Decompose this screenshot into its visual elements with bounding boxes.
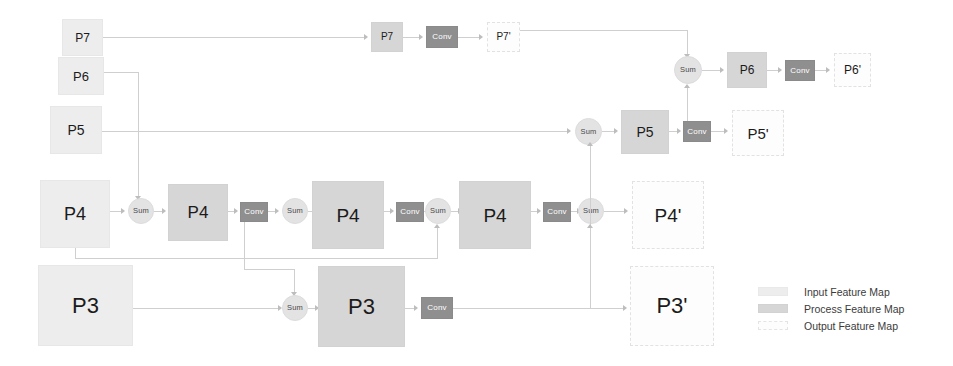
node-p7-output[interactable]: P7' [487,22,520,52]
arrow-p4sum1-to-proc1 [162,208,166,214]
node-p3-process[interactable]: P3 [318,266,405,347]
node-p6-process[interactable]: P6 [727,52,767,88]
node-p6-sum[interactable]: Sum [674,56,702,84]
node-p5-output[interactable]: P5' [732,110,784,156]
node-p5-process[interactable]: P5 [621,110,669,154]
edge-p6in-down-to-p4sum1 [138,72,139,198]
node-p3-output[interactable]: P3' [630,266,714,346]
edge-p3in-to-p3sum [133,308,279,309]
arrow-p5sum-to-p5proc [614,128,618,134]
edge-p4conv1-down [244,222,245,270]
edge-p7out-right [520,30,687,31]
node-p4-sum-4[interactable]: Sum [578,198,604,224]
node-p4-conv-2[interactable]: Conv [396,202,424,222]
arrow-into-p6sum-bottom [684,84,690,88]
edge-p3conv-to-p3out [453,308,624,309]
node-p4-sum-3[interactable]: Sum [425,198,451,224]
arrow-p4conv1-to-sum2 [275,208,279,214]
node-p3-conv[interactable]: Conv [421,297,453,319]
node-p4-conv-1[interactable]: Conv [240,202,268,222]
node-p4-process-2[interactable]: P4 [312,181,384,249]
arrow-p7conv-to-p7out [479,34,483,40]
arrow-p6proc-to-conv [778,67,782,73]
arrow-p4proc1-to-conv1 [234,208,238,214]
arrow-into-p4sum4-bottom [587,224,593,228]
edge-p4in-skip-up-to-sum2 [437,228,438,259]
edge-p7in-to-p7proc [103,37,365,38]
diagram-canvas: P7 P7 Conv P7' P6 Sum P6 Conv P6' P5 Sum… [0,0,953,366]
arrow-p4sum4-to-p4out [624,208,628,214]
node-p7-process[interactable]: P7 [371,22,403,52]
arrow-p4proc3-to-conv3 [537,208,541,214]
node-p4-process-1[interactable]: P4 [168,184,228,241]
arrow-p5in-to-p5sum [567,128,571,134]
edge-p4in-skip-right [75,258,437,259]
edge-p5conv-to-p5out [711,131,725,132]
legend-swatch-input [758,287,788,296]
arrow-p5conv-to-p5out [724,128,728,134]
edge-p7proc-to-conv [403,37,420,38]
node-p4-sum-2[interactable]: Sum [282,198,308,224]
node-p3-input[interactable]: P3 [38,265,133,346]
arrow-p6sum-to-p6proc [720,67,724,73]
arrow-p7in-to-p7proc [364,34,368,40]
node-p4-process-3[interactable]: P4 [459,181,531,249]
arrow-p3conv-to-p3out [623,305,627,311]
edge-p7out-down-to-p6sum [687,30,688,56]
legend-item-process: Process Feature Map [758,300,904,317]
legend-item-output: Output Feature Map [758,317,904,334]
arrow-p3proc-to-conv [414,305,418,311]
legend-label-input: Input Feature Map [804,286,890,298]
edge-p4conv1-right-to-p3sum [244,269,294,270]
node-p5-sum[interactable]: Sum [575,118,602,145]
legend-swatch-output [758,321,788,330]
legend: Input Feature Map Process Feature Map Ou… [758,283,904,334]
arrow-into-p4sum2-bottom [434,224,440,228]
arrow-p4in-to-sum1 [121,208,125,214]
arrow-p6conv-to-p6out [826,67,830,73]
node-p6-input[interactable]: P6 [58,57,104,95]
node-p5-conv[interactable]: Conv [683,121,711,142]
legend-swatch-process [758,304,788,313]
edge-p5conv-up-to-p6sum [687,88,688,121]
node-p7-input[interactable]: P7 [62,19,103,56]
node-p3-sum[interactable]: Sum [282,295,308,321]
node-p4-conv-3[interactable]: Conv [543,202,571,222]
node-p4-output[interactable]: P4' [632,181,704,249]
edge-p5in-to-p5sum [102,131,568,132]
legend-label-process: Process Feature Map [804,303,904,315]
legend-label-output: Output Feature Map [804,320,898,332]
node-p4-input[interactable]: P4 [40,180,110,248]
arrow-p4proc2-to-conv2 [390,208,394,214]
edge-p7conv-to-p7out [458,37,480,38]
node-p4-sum-1[interactable]: Sum [128,198,154,224]
edge-p6in-right [104,72,139,73]
edge-p6sum-to-p6proc [702,70,721,71]
node-p7-conv[interactable]: Conv [426,26,458,48]
node-p5-input[interactable]: P5 [50,106,102,154]
arrow-p7proc-to-conv [419,34,423,40]
edge-p4conv1-down-to-p3sum [294,269,295,294]
node-p6-conv[interactable]: Conv [785,60,815,81]
arrow-p5proc-to-conv [677,128,681,134]
edge-p4sum4-to-p4out [604,211,625,212]
arrow-into-p5sum-bottom [587,142,593,146]
legend-item-input: Input Feature Map [758,283,904,300]
node-p6-output[interactable]: P6' [834,53,871,87]
